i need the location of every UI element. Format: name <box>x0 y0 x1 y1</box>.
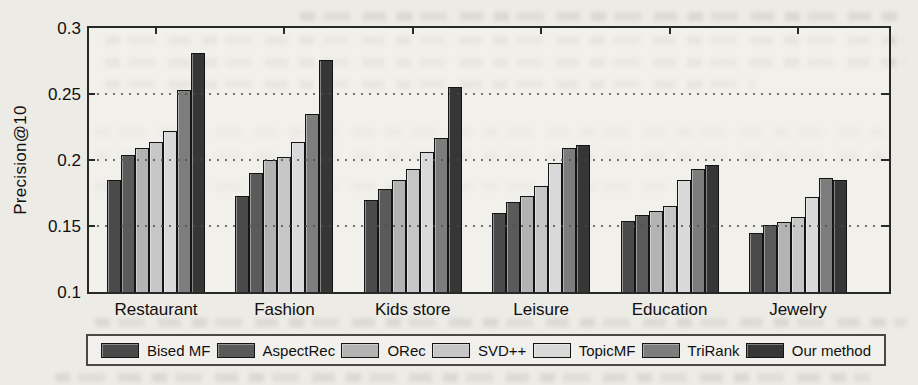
legend-swatch <box>432 343 470 358</box>
legend-item: TriRank <box>642 342 740 359</box>
bar <box>121 155 135 292</box>
legend-label: AspectRec <box>263 342 336 359</box>
legend-item: ORec <box>341 342 425 359</box>
x-tick-label: Kids store <box>375 300 451 320</box>
bar <box>691 169 705 292</box>
legend-label: TriRank <box>688 342 740 359</box>
x-tick-label: Leisure <box>513 300 569 320</box>
bar <box>249 173 263 292</box>
x-tick-label: Education <box>632 300 708 320</box>
legend-item: AspectRec <box>217 342 336 359</box>
legend-item: Bised MF <box>101 342 210 359</box>
bar <box>805 197 819 292</box>
y-axis-tick <box>881 159 889 161</box>
bar <box>364 200 378 292</box>
bar <box>705 165 719 292</box>
x-tick-label: Jewelry <box>769 300 827 320</box>
bar <box>420 152 434 292</box>
x-axis-tick <box>540 27 542 34</box>
bar <box>777 222 791 292</box>
y-axis-title-text: Precision@10 <box>11 105 31 215</box>
bar <box>149 142 163 292</box>
bar <box>107 180 121 292</box>
bar <box>819 178 833 292</box>
bar <box>576 145 590 292</box>
x-tick-label: Restaurant <box>114 300 197 320</box>
bar <box>506 202 520 292</box>
gridline <box>89 159 889 161</box>
bar <box>378 189 392 292</box>
bar <box>191 53 205 292</box>
bar <box>677 180 691 292</box>
x-axis-tick <box>669 27 671 34</box>
x-axis-tick <box>283 27 285 34</box>
scanned-paper-figure: Precision@10 RestaurantFashionKids store… <box>0 0 918 385</box>
plot-area: RestaurantFashionKids storeLeisureEducat… <box>87 26 891 294</box>
bleed-through-artifact <box>300 12 900 21</box>
bar <box>163 131 177 292</box>
bar <box>392 180 406 292</box>
y-axis-tick <box>89 159 95 161</box>
bar <box>406 169 420 292</box>
x-tick-label: Fashion <box>254 300 314 320</box>
legend-swatch <box>533 343 571 358</box>
legend-item: Our method <box>746 342 871 359</box>
legend-label: Our method <box>792 342 871 359</box>
legend-label: TopicMF <box>579 342 636 359</box>
bar <box>291 142 305 292</box>
legend-swatch <box>642 343 680 358</box>
y-tick-label: 0.2 <box>31 151 81 171</box>
legend-label: SVD++ <box>478 342 526 359</box>
legend-item: SVD++ <box>432 342 526 359</box>
y-axis-tick <box>881 225 889 227</box>
bar <box>520 196 534 292</box>
bar <box>562 148 576 292</box>
bar <box>749 233 763 292</box>
bar <box>791 217 805 292</box>
legend: Bised MFAspectRecORecSVD++TopicMFTriRank… <box>86 334 886 366</box>
legend-label: Bised MF <box>147 342 210 359</box>
legend-label: ORec <box>387 342 425 359</box>
x-axis-tick <box>797 27 799 34</box>
gridline <box>89 93 889 95</box>
legend-swatch <box>217 343 255 358</box>
gridline <box>89 225 889 227</box>
x-axis-tick <box>412 27 414 34</box>
bar <box>548 163 562 292</box>
bar <box>621 221 635 292</box>
legend-swatch <box>341 343 379 358</box>
bar <box>534 186 548 292</box>
legend-swatch <box>746 343 784 358</box>
y-axis-tick <box>881 93 889 95</box>
bleed-through-artifact <box>55 373 870 382</box>
y-tick-label: 0.15 <box>31 217 81 237</box>
bar <box>305 114 319 292</box>
bar <box>235 196 249 292</box>
legend-item: TopicMF <box>533 342 636 359</box>
bar <box>833 180 847 292</box>
x-axis-tick <box>155 27 157 34</box>
bar <box>448 87 462 292</box>
y-tick-label: 0.3 <box>31 19 81 39</box>
legend-swatch <box>101 343 139 358</box>
y-axis-tick <box>89 225 95 227</box>
bar <box>649 211 663 292</box>
y-tick-label: 0.1 <box>31 283 81 303</box>
bar <box>763 225 777 292</box>
bar <box>663 206 677 292</box>
y-axis-tick <box>89 93 95 95</box>
bar <box>135 148 149 292</box>
bar <box>177 90 191 292</box>
y-tick-label: 0.25 <box>31 85 81 105</box>
